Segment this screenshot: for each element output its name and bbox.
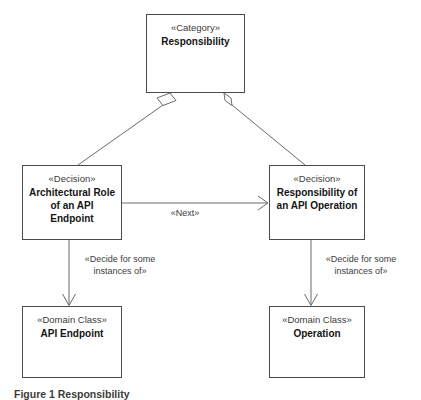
node-stereotype: «Category» bbox=[147, 22, 244, 35]
node-responsibility-of-an-api-operation[interactable]: «Decision» Responsibility of an API Oper… bbox=[269, 165, 365, 240]
edge-responsibility-to-resp-operation bbox=[224, 93, 305, 165]
node-operation[interactable]: «Domain Class» Operation bbox=[269, 306, 365, 378]
node-responsibility[interactable]: «Category» Responsibility bbox=[146, 14, 245, 93]
node-name: Responsibility of an API Operation bbox=[270, 186, 364, 212]
edge-responsibility-to-arch-role bbox=[78, 93, 176, 165]
node-name: Operation bbox=[270, 327, 364, 340]
open-arrowhead-icon bbox=[305, 294, 318, 306]
node-stereotype: «Decision» bbox=[23, 173, 121, 186]
node-api-endpoint[interactable]: «Domain Class» API Endpoint bbox=[22, 306, 122, 378]
aggregation-diamond-icon bbox=[157, 93, 176, 106]
node-name: Architectural Role of an API Endpoint bbox=[23, 186, 121, 225]
edge-label-next: «Next» bbox=[155, 207, 215, 219]
diagram-canvas: «Category» Responsibility «Decision» Arc… bbox=[0, 0, 421, 400]
edge-label-decide-for-some-instances-of-left: «Decide for some instances of» bbox=[74, 253, 166, 277]
open-arrowhead-icon bbox=[258, 196, 268, 210]
open-arrowhead-icon bbox=[63, 294, 76, 306]
node-name: Responsibility bbox=[147, 35, 244, 48]
node-stereotype: «Domain Class» bbox=[270, 314, 364, 327]
figure-caption: Figure 1 Responsibility bbox=[14, 388, 130, 400]
node-name: API Endpoint bbox=[23, 327, 121, 340]
node-architectural-role-of-an-api-endpoint[interactable]: «Decision» Architectural Role of an API … bbox=[22, 165, 122, 240]
node-stereotype: «Decision» bbox=[270, 173, 364, 186]
edge-label-decide-for-some-instances-of-right: «Decide for some instances of» bbox=[315, 253, 407, 277]
aggregation-diamond-icon bbox=[224, 93, 232, 106]
node-stereotype: «Domain Class» bbox=[23, 314, 121, 327]
